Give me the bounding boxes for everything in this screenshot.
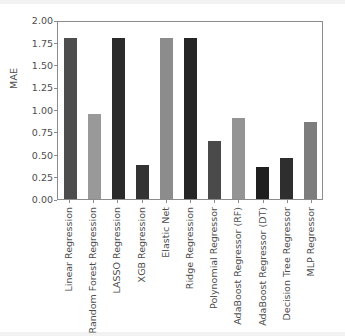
bar-slot (202, 22, 226, 199)
x-axis-tick: LASSO Regression (105, 200, 129, 336)
x-axis-tick: Random Forest Regression (81, 200, 105, 336)
x-axis-tick-mark (287, 200, 288, 203)
bar-slot (106, 22, 130, 199)
x-axis-tick: Elastic Net (154, 200, 178, 336)
x-axis-tick-label: XGB Regression (137, 207, 147, 282)
x-axis-tick-mark (263, 200, 264, 203)
x-axis-tick-label: MLP Regressor (306, 207, 316, 276)
x-axis-tick: Linear Regression (57, 200, 81, 336)
x-axis-tick-label: Decision Tree Regressor (282, 207, 292, 321)
x-axis-tick: Ridge Regression (178, 200, 202, 336)
bar (304, 122, 317, 199)
bar (160, 38, 173, 199)
x-axis-tick-label: Random Forest Regression (89, 207, 99, 334)
x-axis-tick-mark (142, 200, 143, 203)
x-axis-tick: Polynomial Regressor (202, 200, 226, 336)
x-axis-tick-label: LASSO Regression (113, 207, 123, 294)
x-axis-tick-mark (238, 200, 239, 203)
x-axis-tick-mark (311, 200, 312, 203)
bar-series (58, 22, 322, 199)
bar (208, 141, 221, 199)
x-axis-tick-mark (190, 200, 191, 203)
x-axis-tick: AdaBoost Regressor (RF) (226, 200, 250, 336)
x-axis-tick-label: Polynomial Regressor (209, 207, 219, 309)
x-axis-tick-label: Ridge Regression (185, 207, 195, 289)
x-axis-tick-label: Elastic Net (161, 207, 171, 258)
x-axis-tick-label: Linear Regression (64, 207, 74, 292)
bar-slot (154, 22, 178, 199)
bar-slot (250, 22, 274, 199)
bar-slot (298, 22, 322, 199)
scan-band-top (0, 0, 345, 4)
plot-area (57, 21, 323, 200)
x-axis-tick: AdaBoost Regressor (DT) (251, 200, 275, 336)
bar-slot (130, 22, 154, 199)
bar-slot (58, 22, 82, 199)
bar-slot (226, 22, 250, 199)
bar (184, 38, 197, 199)
y-axis: 0.000.250.500.751.001.251.501.752.00 (0, 21, 57, 200)
x-axis-tick-mark (69, 200, 70, 203)
x-axis-tick: Decision Tree Regressor (275, 200, 299, 336)
bar-slot (274, 22, 298, 199)
x-axis: Linear RegressionRandom Forest Regressio… (57, 200, 323, 336)
bar-slot (82, 22, 106, 199)
bar (112, 38, 125, 199)
bar-slot (178, 22, 202, 199)
bar (136, 165, 149, 199)
x-axis-tick-mark (166, 200, 167, 203)
x-axis-tick-mark (93, 200, 94, 203)
bar (64, 38, 77, 199)
x-axis-tick: MLP Regressor (299, 200, 323, 336)
bar (88, 114, 101, 199)
bar (256, 167, 269, 199)
bar (280, 158, 293, 199)
x-axis-tick-label: AdaBoost Regressor (DT) (258, 207, 268, 326)
bar (232, 118, 245, 199)
x-axis-tick-label: AdaBoost Regressor (RF) (234, 207, 244, 325)
x-axis-tick-mark (214, 200, 215, 203)
bar-chart-figure: MAE 0.000.250.500.751.001.251.501.752.00… (0, 0, 345, 336)
x-axis-tick-mark (117, 200, 118, 203)
x-axis-tick: XGB Regression (130, 200, 154, 336)
